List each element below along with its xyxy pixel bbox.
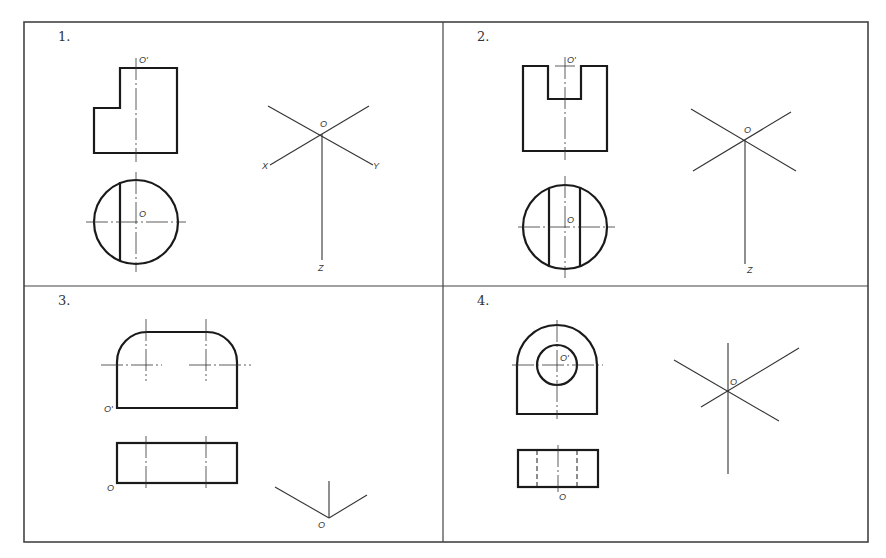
front-origin-label: O' xyxy=(567,55,576,65)
panel-1-number: 1. xyxy=(58,29,70,44)
axis-origin-label: O xyxy=(744,125,751,135)
front-view xyxy=(101,319,251,408)
drawing-sheet: O' O O X Y Z O' O xyxy=(0,0,886,558)
isometric-axes xyxy=(275,481,367,518)
panel-4: O' O O xyxy=(512,320,799,502)
top-view xyxy=(86,172,186,272)
front-view xyxy=(523,57,607,160)
panel-4-number: 4. xyxy=(477,293,489,308)
axis-z-label: Z xyxy=(746,265,753,275)
isometric-axes xyxy=(674,343,799,474)
top-origin-label: O xyxy=(559,492,566,502)
top-view xyxy=(518,445,598,492)
top-view xyxy=(117,436,237,490)
axis-origin-label: O xyxy=(320,119,327,129)
front-origin-label: O' xyxy=(560,353,569,363)
isometric-axes xyxy=(268,106,373,260)
top-origin-label: O xyxy=(107,483,114,493)
frame xyxy=(24,22,868,542)
axis-origin-label: O xyxy=(318,520,325,530)
panel-2: O' O O Z xyxy=(518,55,796,278)
axis-z-label: Z xyxy=(317,263,324,273)
front-view xyxy=(94,58,177,162)
front-view xyxy=(512,320,603,419)
panel-3: O' O O xyxy=(101,319,367,530)
top-origin-label: O xyxy=(567,215,574,225)
panel-2-number: 2. xyxy=(477,29,489,44)
front-origin-label: O' xyxy=(104,404,113,414)
top-view xyxy=(518,176,615,278)
front-origin-label: O' xyxy=(139,55,148,65)
panel-1: O' O O X Y Z xyxy=(86,55,380,273)
top-origin-label: O xyxy=(139,209,146,219)
axis-origin-label: O xyxy=(730,377,737,387)
axis-x-label: X xyxy=(261,161,269,171)
panel-3-number: 3. xyxy=(58,293,70,308)
axis-y-label: Y xyxy=(373,161,380,171)
